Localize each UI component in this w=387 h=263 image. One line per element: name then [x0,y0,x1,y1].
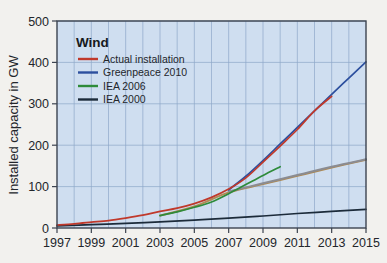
x-tick-label: 2013 [318,236,346,250]
y-tick-label: 200 [28,139,49,153]
x-tick-label: 2009 [249,236,277,250]
y-tick-label: 500 [28,15,49,29]
x-tick-label: 2001 [112,236,140,250]
chart-figure: 0100200300400500 19971999200120032005200… [0,0,387,263]
x-tick-label: 1999 [77,236,105,250]
legend-label-actual-installation: Actual installation [103,53,185,65]
y-tick-label: 100 [28,180,49,194]
legend-label-greenpeace-2010: Greenpeace 2010 [103,66,187,78]
legend-label-iea-2006: IEA 2006 [103,80,146,92]
y-tick-label: 300 [28,97,49,111]
x-tick-label: 1997 [43,236,71,250]
y-axis-title: Installed capacity in GW [6,55,21,195]
wind-capacity-line-chart: 0100200300400500 19971999200120032005200… [0,0,387,263]
x-tick-label: 2005 [180,236,208,250]
legend-title: Wind [76,35,109,50]
y-tick-label: 0 [42,222,49,236]
x-tick-label: 2011 [284,236,311,250]
legend-label-iea-2000: IEA 2000 [103,93,146,105]
y-tick-label: 400 [28,56,49,70]
x-tick-label: 2003 [146,236,174,250]
x-tick-label: 2007 [215,236,243,250]
x-tick-label: 2015 [352,236,380,250]
